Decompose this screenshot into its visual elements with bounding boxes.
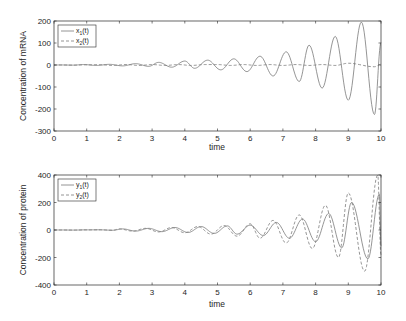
x-tick-label: 4 xyxy=(183,134,188,143)
x-tick-label: 2 xyxy=(117,134,122,143)
y-tick-label: -200 xyxy=(35,105,52,114)
x-tick-label: 3 xyxy=(150,134,155,143)
x-tick-label: 6 xyxy=(248,288,253,297)
x-tick-label: 0 xyxy=(52,288,57,297)
x-tick-label: 7 xyxy=(281,134,286,143)
bottom-xlabel: time xyxy=(209,299,225,309)
x-tick-label: 9 xyxy=(346,134,351,143)
top-axes: 0123456789102001000-100-200-300 time Con… xyxy=(18,17,386,152)
y-tick-label: 0 xyxy=(47,226,52,235)
top-legend: x1(t) x2(t) xyxy=(58,25,96,47)
x-tick-label: 6 xyxy=(248,134,253,143)
top-plot-lines xyxy=(54,22,381,114)
bottom-plot-lines xyxy=(54,175,381,271)
y-tick-label: 200 xyxy=(38,17,52,26)
x-tick-label: 4 xyxy=(183,288,188,297)
x-tick-label: 0 xyxy=(52,134,57,143)
series-y2t-line xyxy=(54,175,381,271)
bottom-legend: y1(t) y2(t) xyxy=(58,179,96,201)
figure: 0123456789102001000-100-200-300 time Con… xyxy=(0,0,406,321)
series-x1t-line xyxy=(54,22,381,114)
y-tick-label: 0 xyxy=(47,61,52,70)
x-tick-label: 10 xyxy=(377,134,386,143)
x-tick-label: 3 xyxy=(150,288,155,297)
series-y1t-line xyxy=(54,194,381,259)
x-tick-label: 5 xyxy=(215,288,220,297)
x-tick-label: 10 xyxy=(377,288,386,297)
bottom-axes: 0123456789104002000-200-400 time Concent… xyxy=(18,171,386,309)
x-tick-label: 2 xyxy=(117,288,122,297)
y-tick-label: -100 xyxy=(35,83,52,92)
x-tick-label: 8 xyxy=(313,134,318,143)
y-tick-label: 400 xyxy=(38,171,52,180)
x-tick-label: 8 xyxy=(313,288,318,297)
y-tick-label: -300 xyxy=(35,127,52,136)
y-tick-label: 100 xyxy=(38,39,52,48)
top-ylabel: Concentration of mRNA xyxy=(18,31,28,121)
y-tick-label: -200 xyxy=(35,254,52,263)
bottom-ylabel: Concentration of protein xyxy=(18,184,28,275)
top-xlabel: time xyxy=(209,142,225,152)
top-axes-box xyxy=(54,21,381,131)
x-tick-label: 7 xyxy=(281,288,286,297)
x-tick-label: 1 xyxy=(84,288,89,297)
x-tick-label: 1 xyxy=(84,134,89,143)
y-tick-label: -400 xyxy=(35,281,52,290)
y-tick-label: 200 xyxy=(38,199,52,208)
x-tick-label: 9 xyxy=(346,288,351,297)
